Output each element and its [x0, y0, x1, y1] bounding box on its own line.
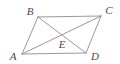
vertex-label-e: E [59, 39, 66, 50]
side-cd-line [86, 16, 101, 53]
vertex-label-d: D [91, 51, 99, 62]
side-bc-line [38, 16, 101, 17]
vertex-label-c: C [105, 5, 112, 16]
parallelogram-diagram [0, 0, 120, 64]
vertex-label-b: B [27, 6, 34, 17]
side-ab-line [22, 17, 38, 54]
geometry-figure: A B C D E [0, 0, 120, 64]
side-da-line [22, 53, 86, 54]
vertex-label-a: A [10, 51, 17, 62]
